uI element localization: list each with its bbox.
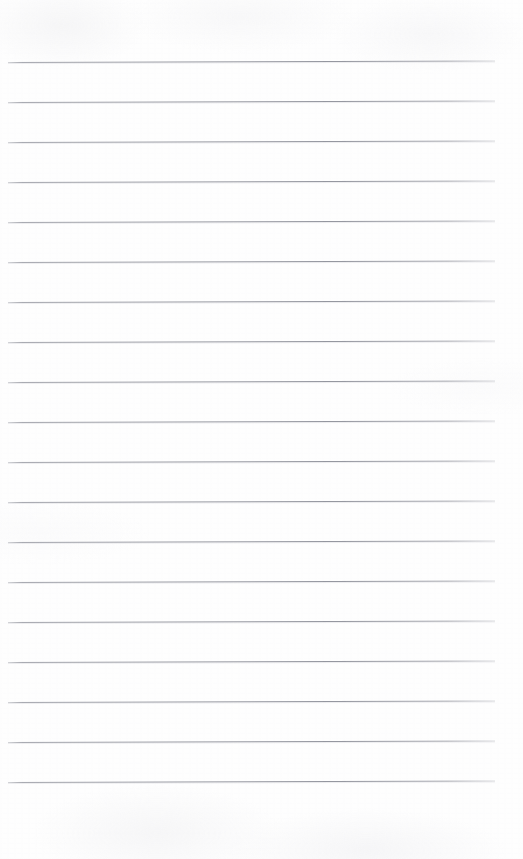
rule-line (8, 140, 495, 143)
ruled-lines-group (0, 0, 523, 859)
rule-line (8, 540, 495, 543)
rule-line (8, 220, 495, 223)
rule-line (8, 260, 495, 263)
rule-line (8, 780, 495, 783)
rule-line (8, 100, 495, 103)
rule-line (8, 580, 495, 583)
rule-line (8, 460, 495, 463)
rule-line (8, 340, 495, 343)
rule-line (8, 740, 495, 743)
scanned-page (0, 0, 523, 859)
rule-line (8, 500, 495, 503)
rule-line (8, 300, 495, 303)
rule-line (8, 380, 495, 383)
rule-line (8, 660, 495, 663)
rule-line (8, 420, 495, 423)
rule-line (8, 180, 495, 183)
rule-line (8, 620, 495, 623)
rule-line (8, 60, 495, 63)
rule-line (8, 700, 495, 703)
